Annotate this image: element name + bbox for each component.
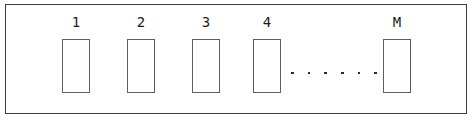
- cell-group-1: 1: [54, 0, 98, 110]
- cell-group-4: 4: [245, 0, 289, 110]
- cell-label-4: 4: [245, 14, 289, 30]
- cell-group-m: M: [375, 0, 419, 110]
- cell-label-m: M: [375, 14, 419, 30]
- cell-label-2: 2: [119, 14, 163, 30]
- ellipsis-dot: [308, 72, 311, 75]
- cell-box-3: [192, 39, 220, 93]
- ellipsis-dot: [291, 72, 294, 75]
- cell-box-4: [253, 39, 281, 93]
- cell-box-m: [383, 39, 411, 93]
- ellipsis-dot: [374, 72, 377, 75]
- cell-box-1: [62, 39, 90, 93]
- ellipsis-dot: [358, 72, 361, 75]
- cell-group-3: 3: [184, 0, 228, 110]
- cell-group-2: 2: [119, 0, 163, 110]
- cell-label-3: 3: [184, 14, 228, 30]
- ellipsis-dots: [291, 66, 377, 80]
- ellipsis-dot: [324, 72, 327, 75]
- cell-box-2: [127, 39, 155, 93]
- cell-label-1: 1: [54, 14, 98, 30]
- ellipsis-dot: [341, 72, 344, 75]
